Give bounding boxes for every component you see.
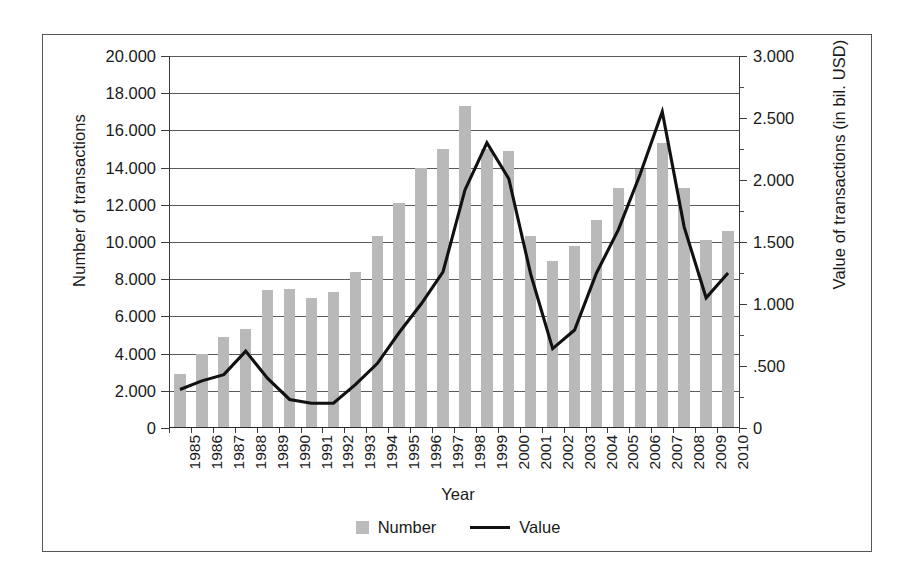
y-axis-left-tick-label: 8.000 <box>115 270 156 289</box>
x-axis-tick <box>454 428 455 433</box>
y-axis-right-tick <box>739 366 747 367</box>
x-axis-tick <box>213 428 214 433</box>
x-axis-tick-label: 2009 <box>712 435 730 469</box>
x-axis-tick <box>695 428 696 433</box>
y-axis-left-tick-label: 0 <box>147 419 156 438</box>
x-axis-tick-label: 1996 <box>427 435 445 469</box>
x-axis-tick-label: 2000 <box>515 435 533 469</box>
x-axis-tick <box>257 428 258 433</box>
x-axis-tick <box>432 428 433 433</box>
y-axis-left-tick <box>161 428 169 429</box>
y-axis-right-tick <box>739 180 747 181</box>
x-axis-tick <box>673 428 674 433</box>
y-axis-left-tick <box>161 391 169 392</box>
x-axis-tick-label: 1988 <box>252 435 270 469</box>
legend-swatch-value-icon <box>470 526 510 529</box>
x-axis-tick <box>629 428 630 433</box>
y-axis-left-tick <box>161 316 169 317</box>
y-axis-left-tick-label: 20.000 <box>106 47 156 66</box>
x-axis-tick <box>322 428 323 433</box>
y-axis-left-spine <box>169 56 170 428</box>
x-axis-tick-label: 1990 <box>296 435 314 469</box>
x-axis-tick <box>169 428 170 433</box>
y-axis-right-tick-label: 1.500 <box>753 233 794 252</box>
x-axis-tick-label: 1986 <box>208 435 226 469</box>
x-axis-tick-label: 1989 <box>274 435 292 469</box>
chart-legend: Number Value <box>43 518 873 537</box>
y-axis-right-tick-label: 2.000 <box>753 171 794 190</box>
x-axis-tick <box>498 428 499 433</box>
x-axis-tick <box>717 428 718 433</box>
x-axis-tick-label: 1997 <box>449 435 467 469</box>
y-axis-right-tick-label: 0 <box>753 419 762 438</box>
y-axis-left-tick <box>161 354 169 355</box>
line-series-value <box>169 56 739 428</box>
y-axis-left-tick-label: 18.000 <box>106 84 156 103</box>
y-axis-left-tick <box>161 279 169 280</box>
y-axis-right-spine <box>739 56 740 428</box>
x-axis-tick-label: 1994 <box>383 435 401 469</box>
x-axis-tick <box>388 428 389 433</box>
x-axis-tick <box>564 428 565 433</box>
y-axis-right-tick-label: 3.000 <box>753 47 794 66</box>
y-axis-right-tick-label: .500 <box>753 357 785 376</box>
y-axis-left-tick <box>161 168 169 169</box>
x-axis-tick-label: 1993 <box>361 435 379 469</box>
x-axis-tick <box>520 428 521 433</box>
legend-swatch-number-icon <box>356 521 369 534</box>
x-axis-tick <box>651 428 652 433</box>
x-axis-tick-label: 2006 <box>646 435 664 469</box>
y-axis-left-tick-label: 6.000 <box>115 307 156 326</box>
x-axis-title: Year <box>43 485 873 504</box>
x-axis-tick-label: 2004 <box>603 435 621 469</box>
x-axis-tick-label: 2007 <box>668 435 686 469</box>
x-axis-tick <box>344 428 345 433</box>
x-axis-tick-label: 2002 <box>559 435 577 469</box>
legend-label-value: Value <box>519 518 560 537</box>
y-axis-right-tick-label: 2.500 <box>753 109 794 128</box>
x-axis-tick-label: 1995 <box>405 435 423 469</box>
y-axis-left-tick <box>161 242 169 243</box>
chart-figure-frame: Number of transactions Value of transact… <box>42 34 872 552</box>
y-axis-right-tick <box>739 304 747 305</box>
x-axis-tick-label: 1985 <box>186 435 204 469</box>
x-axis-tick <box>301 428 302 433</box>
x-axis-tick <box>476 428 477 433</box>
y-axis-left-tick <box>161 56 169 57</box>
x-axis-tick <box>542 428 543 433</box>
x-axis-tick <box>235 428 236 433</box>
x-axis-tick-label: 2008 <box>690 435 708 469</box>
x-axis-tick-label: 1998 <box>471 435 489 469</box>
x-axis-tick-label: 1999 <box>493 435 511 469</box>
y-axis-right-tick <box>739 428 747 429</box>
y-axis-right-tick-label: 1.000 <box>753 295 794 314</box>
x-axis-tick <box>191 428 192 433</box>
x-axis-tick <box>607 428 608 433</box>
y-axis-left-tick-label: 10.000 <box>106 233 156 252</box>
x-axis-tick-label: 2001 <box>537 435 555 469</box>
legend-item-number: Number <box>356 518 437 537</box>
x-axis-tick <box>586 428 587 433</box>
x-axis-tick-label: 1987 <box>230 435 248 469</box>
x-axis-tick-label: 2003 <box>581 435 599 469</box>
legend-item-value: Value <box>470 518 560 537</box>
y-axis-left-tick-label: 12.000 <box>106 195 156 214</box>
y-axis-left-title: Number of transactions <box>70 61 89 341</box>
y-axis-left-tick <box>161 93 169 94</box>
x-axis-tick-label: 1992 <box>339 435 357 469</box>
x-axis-tick <box>366 428 367 433</box>
plot-area: 02.0004.0006.0008.00010.00012.00014.0001… <box>169 56 739 428</box>
x-axis-tick-label: 2010 <box>734 435 752 469</box>
y-axis-left-tick <box>161 205 169 206</box>
y-axis-right-tick <box>739 56 747 57</box>
y-axis-left-tick <box>161 130 169 131</box>
y-axis-right-tick <box>739 118 747 119</box>
y-axis-right-title: Value of transactions (in bil. USD) <box>830 0 849 330</box>
x-axis-tick-label: 2005 <box>624 435 642 469</box>
y-axis-left-tick-label: 16.000 <box>106 121 156 140</box>
y-axis-left-tick-label: 4.000 <box>115 344 156 363</box>
x-axis-tick <box>279 428 280 433</box>
value-line-path <box>180 112 728 403</box>
legend-label-number: Number <box>378 518 437 537</box>
y-axis-right-tick <box>739 242 747 243</box>
